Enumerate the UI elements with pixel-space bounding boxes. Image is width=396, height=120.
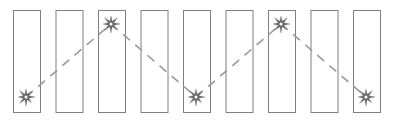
- starburst-core-icon: [194, 95, 197, 98]
- starburst-core-icon: [24, 95, 27, 98]
- starburst-core-icon: [109, 22, 112, 25]
- diagram-svg: [0, 0, 396, 120]
- starburst-core-icon: [279, 22, 282, 25]
- slat-bar: [226, 11, 253, 113]
- starburst-core-icon: [364, 95, 367, 98]
- slat-bar: [141, 11, 168, 113]
- diagram-canvas: [0, 0, 396, 120]
- slat-bar: [311, 11, 338, 113]
- slat-bar: [56, 11, 83, 113]
